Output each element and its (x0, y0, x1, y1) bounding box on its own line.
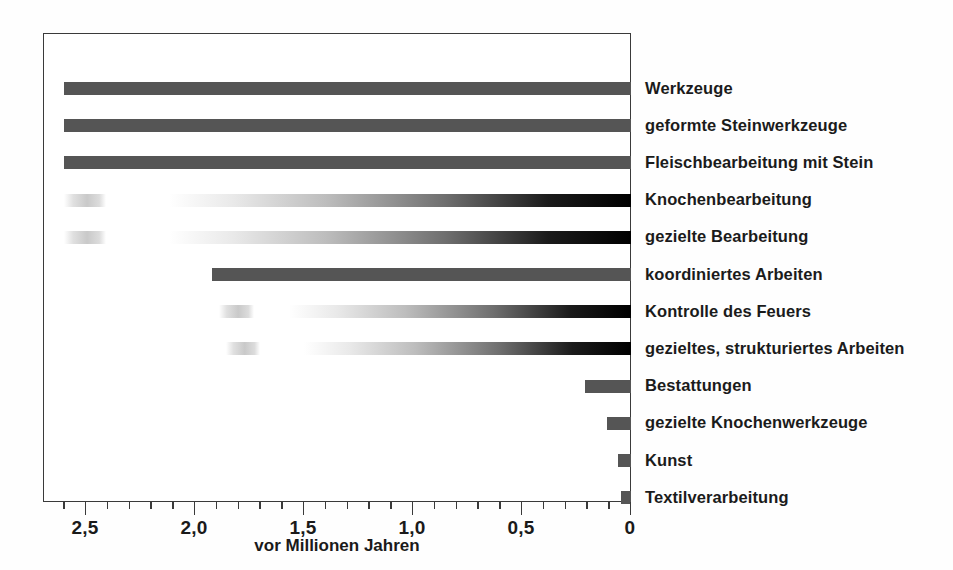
category-label-2: geformte Steinwerkzeuge (645, 115, 847, 134)
category-label-11: Kunst (645, 450, 692, 469)
category-label-5: gezielte Bearbeitung (645, 227, 808, 246)
category-labels-layer: Werkzeugegeformte SteinwerkzeugeFleischb… (0, 0, 953, 570)
category-label-8: gezieltes, strukturiertes Arbeiten (645, 338, 905, 357)
category-label-9: Bestattungen (645, 376, 752, 395)
category-label-1: Werkzeuge (645, 78, 733, 97)
category-label-7: Kontrolle des Feuers (645, 301, 811, 320)
category-label-10: gezielte Knochenwerkzeuge (645, 413, 868, 432)
category-label-6: koordiniertes Arbeiten (645, 264, 823, 283)
category-label-3: Fleischbearbeitung mit Stein (645, 152, 873, 171)
category-label-12: Textilverarbeitung (645, 487, 789, 506)
timeline-bar-chart-figure: 2,52,01,51,00,50 vor Millionen Jahren We… (0, 0, 953, 570)
category-label-4: Knochenbearbeitung (645, 190, 812, 209)
